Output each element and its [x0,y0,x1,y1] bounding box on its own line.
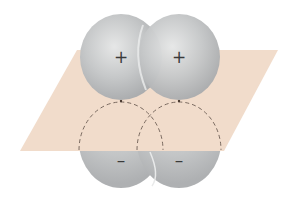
upper-lobes [80,14,220,100]
plus-sign-right: + [172,47,186,67]
plus-sign-left: + [114,47,128,67]
minus-sign-right: – [175,150,184,170]
minus-sign-left: – [117,150,126,170]
pi-bond-diagram: + + – – [0,0,296,203]
